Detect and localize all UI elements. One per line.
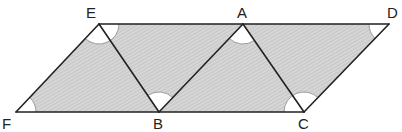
vertex-label-c: C	[298, 115, 309, 132]
vertex-label-b: B	[153, 115, 163, 132]
vertex-label-e: E	[86, 4, 96, 21]
parallelogram-fill	[16, 24, 389, 112]
vertex-label-f: F	[2, 115, 11, 132]
parallelogram-diagram: EADFBC	[0, 0, 402, 132]
vertex-label-a: A	[237, 4, 247, 21]
shaded-region	[16, 24, 389, 112]
vertex-label-d: D	[387, 4, 398, 21]
